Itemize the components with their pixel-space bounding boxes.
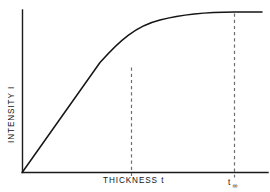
intensity-vs-thickness-chart: INTENSITY I THICKNESS t t ∞ bbox=[0, 0, 270, 192]
figure-container: INTENSITY I THICKNESS t t ∞ bbox=[0, 0, 270, 192]
saturation-tick-label-subscript: ∞ bbox=[233, 182, 238, 189]
chart-background bbox=[0, 0, 270, 192]
y-axis-label: INTENSITY I bbox=[7, 86, 16, 143]
x-axis-label: THICKNESS t bbox=[103, 176, 164, 185]
